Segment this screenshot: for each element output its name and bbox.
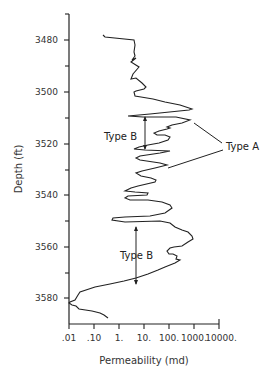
- y-ticks: [64, 40, 69, 298]
- x-tick-label: 1.: [115, 333, 124, 343]
- permeability-depth-chart: 3480 3500 3520 3540 3560 3580 Depth (ft)…: [0, 0, 270, 376]
- y-axis-title: Depth (ft): [13, 145, 24, 194]
- y-tick-label: 3560: [35, 242, 58, 252]
- y-tick-label: 3580: [35, 293, 58, 303]
- type-b-label: Type B: [103, 131, 137, 142]
- permeability-curve: [69, 35, 193, 318]
- x-tick-label: 10.: [137, 333, 151, 343]
- y-tick-label: 3480: [35, 35, 58, 45]
- y-tick-labels: 3480 3500 3520 3540 3560 3580: [35, 35, 58, 303]
- x-axis-title: Permeability (md): [99, 355, 188, 366]
- x-tick-label: 10000.: [205, 333, 237, 343]
- x-tick-label: 1000.: [181, 333, 207, 343]
- type-b-label: Type B: [119, 250, 153, 261]
- y-tick-label: 3500: [35, 87, 58, 97]
- x-tick-label: .01: [62, 333, 76, 343]
- type-a-annotation: Type A: [168, 123, 259, 168]
- x-tick-label: .10: [87, 333, 102, 343]
- y-tick-label: 3520: [35, 139, 58, 149]
- type-a-label: Type A: [225, 141, 259, 152]
- x-tick-label: 100.: [159, 333, 179, 343]
- type-b-upper-annotation: Type B: [103, 116, 147, 150]
- x-tick-labels: .01 .10 1. 10. 100. 1000. 10000.: [62, 333, 237, 343]
- y-tick-label: 3540: [35, 190, 58, 200]
- type-b-lower-annotation: Type B: [119, 226, 153, 285]
